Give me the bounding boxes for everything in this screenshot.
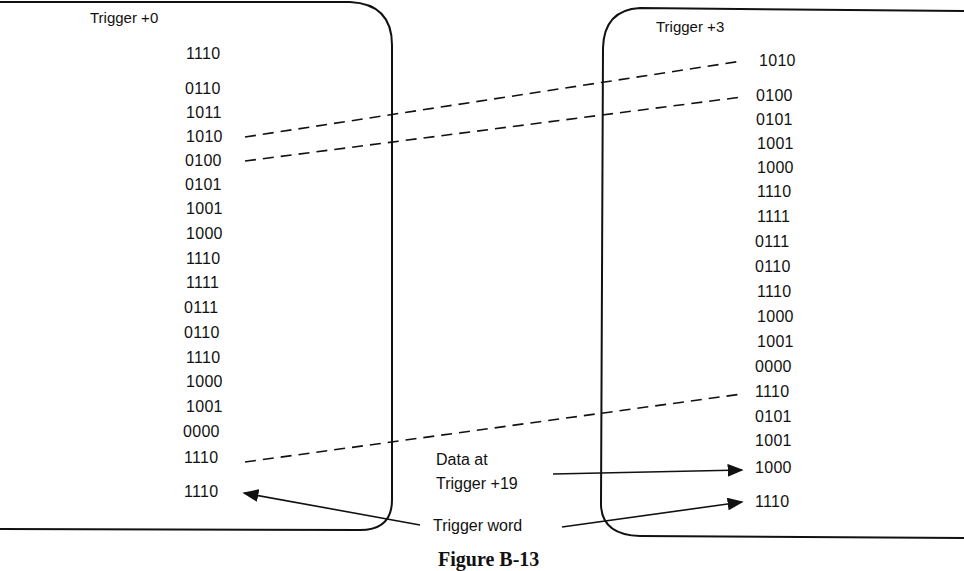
left-word: 1110 [186,250,220,268]
right-word: 0100 [756,87,793,105]
right-word: 1110 [755,383,789,401]
right-word: 1000 [755,459,792,477]
left-word: 0110 [184,324,220,342]
left-word: 1000 [186,225,223,243]
data-at-line1: Data at [436,448,518,472]
figure-caption: Figure B-13 [438,548,539,571]
right-word: 1000 [757,159,794,177]
right-panel-title: Trigger +3 [656,18,724,35]
left-word: 1010 [186,128,223,146]
right-word: 1110 [757,183,791,201]
left-word: 0100 [185,152,222,170]
left-word: 0000 [183,423,220,441]
left-panel-title: Trigger +0 [90,9,158,26]
right-word: 0110 [755,258,791,276]
data-at-label: Data at Trigger +19 [436,448,518,496]
right-word: 1001 [757,333,794,351]
left-word: 1110 [186,45,220,63]
left-word: 1110 [184,449,218,467]
left-word: 1110 [186,349,220,367]
left-word: 1001 [186,200,223,218]
left-word: 0111 [184,299,218,317]
data-at-line2: Trigger +19 [436,472,518,496]
left-word: 1111 [186,274,219,292]
right-word: 0101 [755,408,792,426]
left-word: 1011 [186,104,222,122]
left-word: 1000 [186,373,223,391]
right-word: 1110 [757,283,791,301]
right-word: 0101 [756,111,793,129]
right-word: 1000 [757,308,794,326]
trigger-word-label: Trigger word [433,514,522,538]
right-word: 1111 [757,208,790,226]
right-word: 1010 [759,52,796,70]
right-word: 0000 [755,358,792,376]
left-word: 0101 [185,176,222,194]
right-word: 0111 [755,233,789,251]
right-word: 1001 [755,432,792,450]
left-word: 0110 [185,80,221,98]
right-word: 1110 [755,493,789,511]
right-word: 1001 [757,135,794,153]
left-word: 1110 [184,483,218,501]
left-word: 1001 [186,398,223,416]
